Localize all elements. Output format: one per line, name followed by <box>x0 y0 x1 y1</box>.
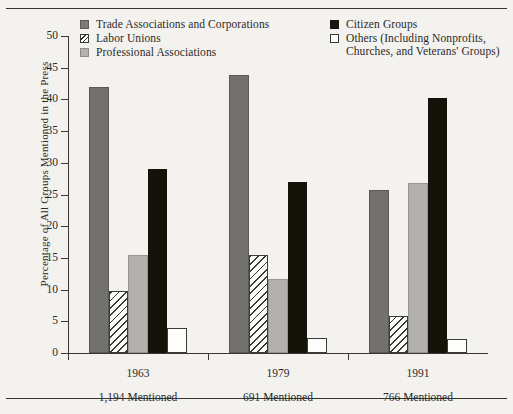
x-tick-mark <box>68 353 69 360</box>
y-tick-label: 45 <box>30 62 58 74</box>
bar <box>89 87 109 353</box>
y-tick-label: 15 <box>30 252 58 264</box>
y-tick-label: 30 <box>30 157 58 169</box>
bar <box>428 98 448 353</box>
bar <box>148 169 168 353</box>
plot-area: 05101520253035404550 19631,194 Mentioned… <box>68 36 488 353</box>
x-tick-mark <box>208 353 209 360</box>
y-tick-mark <box>61 99 68 100</box>
citizen-swatch-icon <box>330 20 339 29</box>
x-group-label: 1991 <box>348 368 488 380</box>
y-tick-mark <box>61 321 68 322</box>
y-tick-mark <box>61 131 68 132</box>
y-tick-mark <box>61 68 68 69</box>
y-tick-label: 0 <box>30 347 58 359</box>
bar <box>249 255 269 353</box>
y-tick-label: 25 <box>30 189 58 201</box>
x-group-sublabel: 1,194 Mentioned <box>68 392 208 404</box>
bar <box>307 338 327 353</box>
y-tick-mark <box>61 195 68 196</box>
x-group-sublabel: 766 Mentioned <box>348 392 488 404</box>
y-tick-mark <box>61 226 68 227</box>
bar <box>167 328 187 353</box>
bar <box>109 291 129 353</box>
x-group-label: 1963 <box>68 368 208 380</box>
legend-item-label: Citizen Groups <box>346 18 417 31</box>
bar <box>408 183 428 353</box>
bar <box>389 316 409 353</box>
figure-container: Trade Associations and CorporationsLabor… <box>0 0 513 414</box>
bar-series-container <box>68 36 488 353</box>
bar <box>128 255 148 353</box>
y-tick-label: 35 <box>30 125 58 137</box>
y-tick-label: 50 <box>30 30 58 42</box>
legend-item[interactable]: Citizen Groups <box>330 18 500 31</box>
bar <box>447 339 467 353</box>
x-group-sublabel: 691 Mentioned <box>208 392 348 404</box>
trade-swatch-icon <box>80 20 89 29</box>
x-axis-line <box>68 353 488 354</box>
x-group-label: 1979 <box>208 368 348 380</box>
y-tick-mark <box>61 36 68 37</box>
bar <box>369 190 389 353</box>
y-tick-label: 5 <box>30 315 58 327</box>
bar <box>229 75 249 353</box>
legend-item-label: Trade Associations and Corporations <box>96 18 269 31</box>
bar <box>288 182 308 353</box>
y-tick-label: 20 <box>30 220 58 232</box>
top-rule <box>6 8 507 9</box>
y-tick-mark <box>61 163 68 164</box>
y-tick-mark <box>61 353 68 354</box>
y-tick-mark <box>61 290 68 291</box>
y-tick-label: 40 <box>30 93 58 105</box>
y-tick-mark <box>61 258 68 259</box>
y-tick-label: 10 <box>30 284 58 296</box>
bar <box>268 279 288 353</box>
legend-item[interactable]: Trade Associations and Corporations <box>80 18 269 31</box>
x-tick-mark <box>348 353 349 360</box>
